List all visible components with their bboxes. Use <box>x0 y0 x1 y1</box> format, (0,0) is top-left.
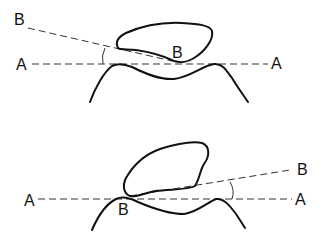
bottom-upper-bone-outline <box>124 142 208 196</box>
top-line-b <box>28 28 172 61</box>
top-label-b-end: B <box>14 11 25 28</box>
bottom-angle-arc <box>230 182 233 199</box>
bottom-lower-groove-outline <box>92 198 245 230</box>
top-panel: B A A B <box>14 11 282 102</box>
top-lower-groove-outline <box>90 64 248 102</box>
top-label-a-right: A <box>271 55 282 72</box>
bottom-label-contact-b: B <box>118 201 129 218</box>
diagram-canvas: B A A B A A B B <box>0 0 326 236</box>
top-label-a-left: A <box>16 56 27 73</box>
top-angle-arc <box>102 48 105 64</box>
bottom-panel: A A B B <box>24 142 308 230</box>
bottom-label-b-end: B <box>297 161 308 178</box>
top-label-contact-b: B <box>172 44 183 61</box>
diagram-svg: B A A B A A B B <box>0 0 326 236</box>
top-upper-bone-outline <box>117 23 212 62</box>
bottom-label-a-left: A <box>24 192 35 209</box>
bottom-label-a-right: A <box>295 191 306 208</box>
